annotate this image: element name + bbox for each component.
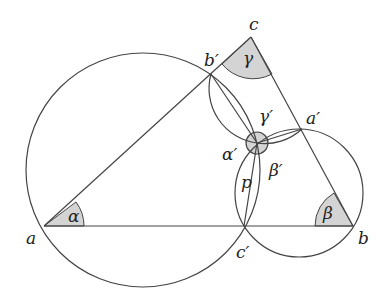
label-alpha: α bbox=[68, 206, 80, 226]
label-c-prime: c′ bbox=[236, 242, 250, 262]
label-gamma: γ bbox=[243, 48, 254, 68]
label-beta: β bbox=[322, 203, 333, 223]
label-c: c bbox=[249, 14, 259, 34]
segment-bprime-p bbox=[211, 74, 257, 143]
diagram-canvas: a b c a′ b′ c′ p α β γ α′ β′ γ′ bbox=[0, 0, 387, 304]
label-b-prime: b′ bbox=[204, 50, 219, 70]
side-ac bbox=[44, 37, 251, 226]
side-bc bbox=[251, 37, 353, 226]
label-a: a bbox=[26, 228, 36, 248]
label-beta-prime: β′ bbox=[268, 160, 283, 180]
label-a-prime: a′ bbox=[306, 108, 320, 128]
angle-beta-fill bbox=[315, 193, 353, 226]
label-gamma-prime: γ′ bbox=[259, 106, 273, 126]
circle-a-bprime-cprime bbox=[26, 53, 260, 287]
label-alpha-prime: α′ bbox=[222, 144, 237, 164]
label-p: p bbox=[241, 172, 252, 192]
label-b: b bbox=[358, 228, 369, 248]
